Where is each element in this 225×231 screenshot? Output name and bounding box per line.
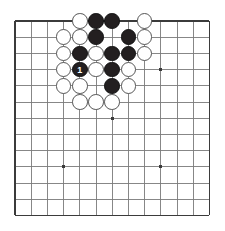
white-stone[interactable] bbox=[88, 62, 104, 78]
black-stone[interactable] bbox=[104, 13, 120, 29]
go-board-grid bbox=[0, 0, 225, 231]
white-stone[interactable] bbox=[137, 13, 153, 29]
black-stone[interactable] bbox=[88, 29, 104, 45]
white-stone[interactable] bbox=[72, 94, 88, 110]
white-stone[interactable] bbox=[56, 78, 72, 94]
black-stone[interactable] bbox=[121, 29, 137, 45]
white-stone[interactable] bbox=[72, 78, 88, 94]
move-number-label: 1 bbox=[73, 65, 87, 74]
white-stone[interactable] bbox=[121, 78, 137, 94]
black-stone[interactable] bbox=[104, 46, 120, 62]
black-stone[interactable] bbox=[88, 13, 104, 29]
black-stone[interactable] bbox=[104, 78, 120, 94]
white-stone[interactable] bbox=[88, 94, 104, 110]
black-stone[interactable]: 1 bbox=[72, 62, 88, 78]
white-stone[interactable] bbox=[72, 29, 88, 45]
black-stone[interactable] bbox=[72, 46, 88, 62]
star-point bbox=[62, 165, 65, 168]
star-point bbox=[159, 68, 162, 71]
white-stone[interactable] bbox=[88, 46, 104, 62]
go-diagram-root: 1 bbox=[0, 0, 225, 231]
white-stone[interactable] bbox=[72, 13, 88, 29]
go-board[interactable]: 1 bbox=[0, 0, 225, 231]
star-point bbox=[111, 117, 114, 120]
star-point bbox=[159, 165, 162, 168]
white-stone[interactable] bbox=[104, 94, 120, 110]
